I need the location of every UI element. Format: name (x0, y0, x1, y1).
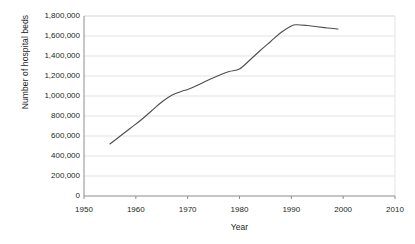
y-axis-tick-label: 200,000 (6, 172, 80, 180)
x-axis-tick-label: 1990 (271, 205, 311, 214)
y-axis-tick-label: 1,400,000 (6, 52, 80, 60)
gridlines (84, 16, 395, 176)
x-axis-tick-label: 1960 (116, 205, 156, 214)
y-axis-tick-label: 400,000 (6, 152, 80, 160)
y-axis-tick-label: 1,200,000 (6, 72, 80, 80)
y-axis-tick-label: 600,000 (6, 132, 80, 140)
y-axis-tick-label: 1,800,000 (6, 12, 80, 20)
x-axis-tick-label: 1980 (220, 205, 260, 214)
data-series-line (110, 25, 338, 144)
x-axis-title: Year (84, 222, 395, 232)
y-axis-tick-label: 0 (6, 192, 80, 200)
x-axis-tick-labels: 1950196019701980199020002010 (0, 200, 415, 220)
x-axis-tick-label: 1970 (168, 205, 208, 214)
x-axis-tick-label: 1950 (64, 205, 104, 214)
axis-frame (84, 16, 395, 196)
x-axis-tick-label: 2010 (375, 205, 415, 214)
y-axis-title: Number of hospital beds (20, 0, 30, 137)
y-axis-tick-label: 800,000 (6, 112, 80, 120)
x-axis-tick-label: 2000 (323, 205, 363, 214)
y-axis-tick-label: 1,600,000 (6, 32, 80, 40)
y-axis-tick-label: 1,000,000 (6, 92, 80, 100)
line-chart-figure: 0200,000400,000600,000800,0001,000,0001,… (0, 0, 415, 244)
